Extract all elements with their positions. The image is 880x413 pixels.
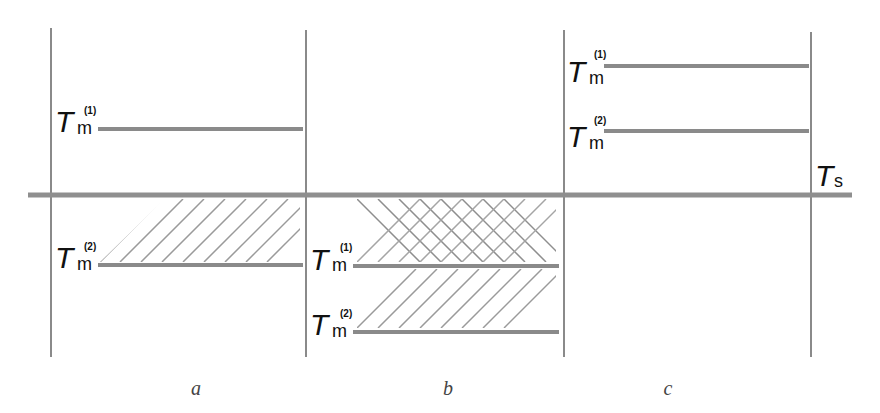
crosshatch-b [357,199,567,262]
svg-text:T: T [310,308,331,341]
svg-text:T: T [567,55,588,88]
label-c-tm1: T m (1) [567,49,606,88]
svg-text:T: T [310,243,331,276]
svg-text:T: T [567,120,588,153]
svg-text:(2): (2) [340,308,352,319]
svg-text:m: m [332,255,347,275]
caption-a: a [191,377,201,399]
label-a-tm2: T m (2) [55,241,96,274]
caption-b: b [443,377,453,399]
svg-text:(2): (2) [84,241,96,252]
label-ts: T s [815,159,843,192]
svg-text:(1): (1) [594,49,606,60]
svg-text:s: s [834,171,843,191]
label-a-tm1: T m (1) [55,105,96,138]
svg-text:m: m [589,68,604,88]
level-lines [98,66,809,332]
svg-text:(1): (1) [340,242,352,253]
hatch-b [357,269,563,328]
caption-c: c [664,377,673,399]
svg-text:m: m [589,133,604,153]
svg-text:T: T [55,105,76,138]
svg-text:(2): (2) [594,115,606,126]
svg-text:T: T [55,241,76,274]
svg-text:m: m [77,118,92,138]
hatch-a [100,199,330,262]
svg-text:m: m [332,321,347,341]
svg-text:m: m [77,254,92,274]
label-b-tm2: T m (2) [310,308,352,341]
phase-diagram: T m (1) T m (2) T m (1) T m (2) T m (1) … [0,0,880,413]
svg-text:(1): (1) [84,105,96,116]
label-c-tm2: T m (2) [567,115,606,153]
label-b-tm1: T m (1) [310,242,352,276]
svg-text:T: T [815,159,836,192]
